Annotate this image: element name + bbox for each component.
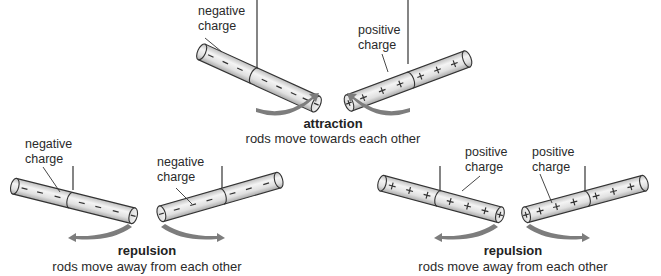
label-line: positive [358,23,400,38]
repulsion-negative-title: repulsion [97,243,197,258]
attraction-title: attraction [283,116,383,131]
label-line: charge [532,160,574,175]
arrow-away-right-icon [161,224,225,242]
positive-charge-label-left: positive charge [465,145,507,175]
label-pointer [462,176,480,191]
label-line: negative [25,137,72,152]
arrow-away-left-icon [68,224,132,242]
negative-rod-left [9,166,139,224]
repulsion-negative-caption: rods move away from each other [47,259,247,274]
negative-charge-label-left: negative charge [25,137,72,167]
negative-charge-label: negative charge [198,4,245,34]
label-line: negative [157,155,204,170]
repulsion-positive-caption: rods move away from each other [413,259,613,274]
label-line: charge [157,170,204,185]
positive-rod [342,0,473,112]
arrow-away-left-icon [434,224,498,242]
label-pointer [382,54,388,72]
repulsion-negative-scene [9,166,285,242]
repulsion-positive-scene [376,166,650,242]
label-line: charge [358,38,400,53]
label-line: charge [25,152,72,167]
repulsion-arrows [434,224,590,242]
label-line: charge [465,160,507,175]
electrostatic-charges-diagram: negative charge positive charge attracti… [0,0,661,276]
repulsion-positive-title: repulsion [463,243,563,258]
arrow-away-right-icon [526,224,590,242]
positive-charge-label: positive charge [358,23,400,53]
label-line: positive [465,145,507,160]
label-pointer [540,174,552,203]
label-line: positive [532,145,574,160]
negative-charge-label-right: negative charge [157,155,204,185]
repulsion-arrows [68,224,225,242]
positive-charge-label-right: positive charge [532,145,574,175]
label-line: negative [198,4,245,19]
label-line: charge [198,19,245,34]
attraction-caption: rods move towards each other [233,131,433,146]
